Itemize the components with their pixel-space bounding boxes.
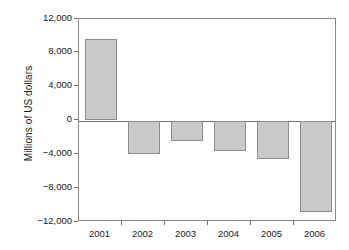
bar-2004 bbox=[214, 121, 246, 151]
x-tick-mark bbox=[250, 221, 251, 225]
y-tick-label: −4,000 bbox=[12, 147, 72, 158]
bar-2002 bbox=[128, 121, 160, 154]
x-tick-mark bbox=[164, 221, 165, 225]
y-tick-label: 8,000 bbox=[12, 45, 72, 56]
zero-baseline bbox=[79, 121, 335, 122]
x-tick-mark bbox=[293, 221, 294, 225]
bar-2003 bbox=[171, 121, 203, 142]
x-tick-label-2002: 2002 bbox=[120, 228, 166, 239]
plot-area bbox=[78, 18, 336, 221]
x-tick-mark bbox=[121, 221, 122, 225]
bar-2001 bbox=[85, 39, 117, 120]
bar-chart: Millions of US dollars 12,0008,0004,0000… bbox=[0, 0, 349, 250]
bar-2005 bbox=[257, 121, 289, 159]
x-tick-label-2005: 2005 bbox=[249, 228, 295, 239]
y-tick-label: 0 bbox=[12, 113, 72, 124]
bar-2006 bbox=[300, 121, 332, 212]
x-tick-label-2006: 2006 bbox=[292, 228, 338, 239]
y-tick-label: −12,000 bbox=[12, 215, 72, 226]
x-tick-label-2003: 2003 bbox=[163, 228, 209, 239]
x-tick-mark bbox=[207, 221, 208, 225]
y-tick-label: −8,000 bbox=[12, 181, 72, 192]
y-tick-label: 12,000 bbox=[12, 12, 72, 23]
y-tick-label: 4,000 bbox=[12, 79, 72, 90]
x-tick-label-2001: 2001 bbox=[77, 228, 123, 239]
x-tick-label-2004: 2004 bbox=[206, 228, 252, 239]
